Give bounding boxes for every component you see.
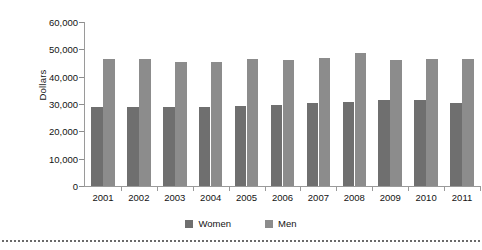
bar-men-2001 [103, 59, 115, 186]
bar-women-2002 [127, 107, 139, 186]
y-axis-tick-label: 10,000 [32, 153, 78, 164]
bar-group [199, 22, 223, 186]
bar-men-2006 [283, 60, 295, 186]
bar-group [235, 22, 259, 186]
x-axis-separator-tick [121, 186, 122, 191]
bar-women-2008 [343, 102, 355, 186]
bar-group [91, 22, 115, 186]
x-axis-tick-label: 2002 [128, 192, 149, 203]
y-axis-tick-label: 0 [32, 181, 78, 192]
y-axis-tick-label: 30,000 [32, 99, 78, 110]
x-axis-separator-tick [229, 186, 230, 191]
x-axis-tick-label: 2003 [164, 192, 185, 203]
x-axis-separator-tick [408, 186, 409, 191]
x-axis-separator-tick [193, 186, 194, 191]
bar-group [307, 22, 331, 186]
bar-women-2006 [271, 105, 283, 186]
legend-item-men: Men [265, 218, 296, 229]
bar-men-2004 [211, 62, 223, 186]
x-axis-separator-tick [444, 186, 445, 191]
x-axis-tick-label: 2010 [416, 192, 437, 203]
chart-legend: WomenMen [0, 218, 482, 229]
y-axis-tick-label: 50,000 [32, 44, 78, 55]
bar-group [378, 22, 402, 186]
x-axis-tick-label: 2011 [452, 192, 472, 203]
bar-chart-figure: Dollars 60,00050,00040,00030,00020,00010… [0, 0, 482, 250]
x-axis-separator-tick [336, 186, 337, 191]
bar-women-2003 [163, 107, 175, 186]
bar-women-2011 [450, 103, 462, 186]
x-axis-line [84, 186, 480, 187]
x-axis-tick-label: 2004 [200, 192, 221, 203]
x-axis-tick-label: 2008 [344, 192, 365, 203]
x-axis-separator-tick [372, 186, 373, 191]
x-axis-separator-tick [480, 186, 481, 191]
bar-men-2002 [139, 59, 151, 186]
x-axis-tick-label: 2001 [92, 192, 113, 203]
bar-women-2010 [414, 100, 426, 186]
bar-women-2004 [199, 107, 211, 186]
bar-men-2008 [355, 53, 367, 186]
x-axis-tick-label: 2005 [236, 192, 257, 203]
x-axis-tick-label: 2006 [272, 192, 293, 203]
x-axis-separator-tick [300, 186, 301, 191]
bar-women-2001 [91, 107, 103, 186]
bottom-dotted-divider [2, 240, 480, 242]
y-axis-tick-label: 60,000 [32, 17, 78, 28]
x-axis-separator-tick [265, 186, 266, 191]
bar-group [163, 22, 187, 186]
y-axis-tick-label: 20,000 [32, 126, 78, 137]
legend-label: Women [198, 218, 231, 229]
bar-men-2005 [247, 59, 259, 186]
bar-men-2010 [426, 59, 438, 186]
bar-group [450, 22, 474, 186]
bar-group [271, 22, 295, 186]
bar-men-2011 [462, 59, 474, 186]
bar-women-2009 [378, 100, 390, 186]
legend-swatch-icon [265, 220, 273, 228]
bar-group [414, 22, 438, 186]
legend-swatch-icon [185, 220, 193, 228]
x-axis-separator-tick [157, 186, 158, 191]
plot-area [85, 22, 480, 186]
bar-men-2009 [390, 60, 402, 186]
legend-label: Men [278, 218, 296, 229]
bar-women-2005 [235, 106, 247, 186]
bar-men-2007 [319, 58, 331, 186]
x-axis-tick-label: 2007 [308, 192, 329, 203]
bar-group [343, 22, 367, 186]
bar-men-2003 [175, 62, 187, 186]
x-axis-tick-label: 2009 [380, 192, 401, 203]
y-axis-tick-labels: 60,00050,00040,00030,00020,00010,0000 [32, 0, 78, 250]
bar-group [127, 22, 151, 186]
y-axis-tick-label: 40,000 [32, 71, 78, 82]
legend-item-women: Women [185, 218, 231, 229]
bar-women-2007 [307, 103, 319, 186]
